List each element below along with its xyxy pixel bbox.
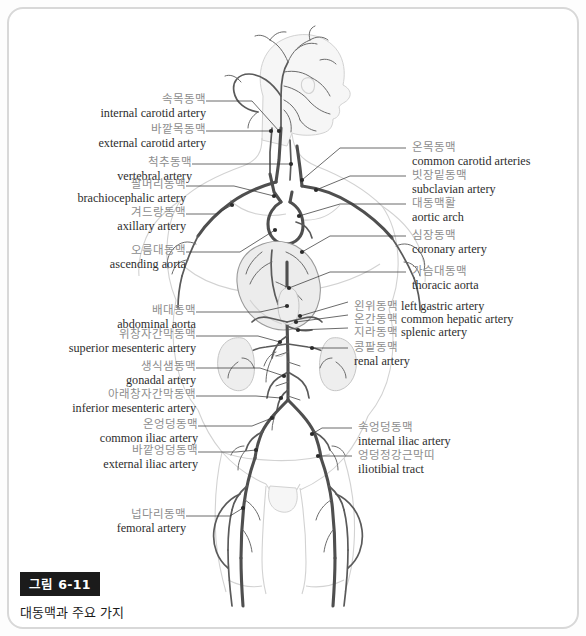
figure-caption: 그림 6-11 대동맥과 주요 가지 — [20, 572, 320, 621]
label-en: external carotid artery — [2, 136, 206, 150]
label-ko: 바깥목동맥 — [2, 122, 206, 136]
label-femoral-artery: 넙다리동맥 femoral artery — [2, 507, 186, 535]
label-external-iliac-artery: 바깥엉덩동맥 external iliac artery — [2, 443, 198, 471]
label-ko: 위창자간막동맥 — [2, 327, 196, 341]
label-ko: 심장동맥 — [412, 228, 487, 242]
label-ascending-aorta: 오름대동맥 ascending aorta — [2, 243, 186, 271]
label-en: internal carotid artery — [2, 106, 206, 120]
label-ko: 지라동맥 — [354, 325, 398, 339]
label-en: inferior mesenteric artery — [2, 401, 196, 415]
label-ko: 가슴대동맥 — [412, 264, 479, 278]
label-en: femoral artery — [2, 521, 186, 535]
label-en: gonadal artery — [2, 373, 196, 387]
label-en: renal artery — [354, 354, 410, 368]
label-inferior-mesenteric-artery: 아래창자간막동맥 inferior mesenteric artery — [2, 387, 196, 415]
label-ko: 척추동맥 — [2, 155, 192, 169]
label-en: axillary artery — [2, 219, 186, 233]
label-ko: 바깥엉덩동맥 — [2, 443, 198, 457]
label-ko: 빗장밑동맥 — [412, 168, 496, 182]
label-ko: 속엉덩동맥 — [358, 420, 451, 434]
label-ko: 대동맥활 — [412, 196, 464, 210]
label-internal-iliac-artery: 속엉덩동맥 internal iliac artery — [358, 420, 451, 448]
label-brachiocephalic-artery: 팔머리동맥 brachiocephalic artery — [2, 177, 186, 205]
label-superior-mesenteric-artery: 위창자간막동맥 superior mesenteric artery — [2, 327, 196, 355]
label-en: iliotibial tract — [358, 462, 435, 476]
label-common-iliac-artery: 온엉덩동맥 common iliac artery — [2, 417, 198, 445]
label-ko: 팔머리동맥 — [2, 177, 186, 191]
label-internal-carotid-artery: 속목동맥 internal carotid artery — [2, 92, 206, 120]
label-thoracic-aorta: 가슴대동맥 thoracic aorta — [412, 264, 479, 292]
label-en: external iliac artery — [2, 457, 198, 471]
label-external-carotid-artery: 바깥목동맥 external carotid artery — [2, 122, 206, 150]
label-ko: 온엉덩동맥 — [2, 417, 198, 431]
label-ko: 온목동맥 — [412, 140, 530, 154]
anatomical-illustration: .body{fill:none;stroke:#d2d2d2;stroke-wi… — [0, 0, 586, 636]
label-ko: 아래창자간막동맥 — [2, 387, 196, 401]
label-coronary-artery: 심장동맥 coronary artery — [412, 228, 487, 256]
label-en: ascending aorta — [2, 257, 186, 271]
label-axillary-artery: 겨드랑동맥 axillary artery — [2, 205, 186, 233]
label-renal-artery: 콩팥동맥 renal artery — [354, 340, 410, 368]
label-en: brachiocephalic artery — [2, 191, 186, 205]
label-aortic-arch: 대동맥활 aortic arch — [412, 196, 464, 224]
label-splenic-artery: 지라동맥splenic artery — [354, 322, 467, 340]
label-ko: 넙다리동맥 — [2, 507, 186, 521]
label-subclavian-artery: 빗장밑동맥 subclavian artery — [412, 168, 496, 196]
label-en: superior mesenteric artery — [2, 341, 196, 355]
label-en: subclavian artery — [412, 182, 496, 196]
label-common-carotid-arteries: 온목동맥 common carotid arteries — [412, 140, 530, 168]
label-ko: 콩팥동맥 — [354, 340, 410, 354]
figure-number-badge: 그림 6-11 — [20, 572, 100, 596]
label-iliotibial-tract: 엉덩정강근막띠 iliotibial tract — [358, 448, 435, 476]
label-ko: 오름대동맥 — [2, 243, 186, 257]
label-en: thoracic aorta — [412, 278, 479, 292]
label-ko: 겨드랑동맥 — [2, 205, 186, 219]
label-ko: 엉덩정강근막띠 — [358, 448, 435, 462]
figure-caption-text: 대동맥과 주요 가지 — [20, 602, 320, 621]
label-en: coronary artery — [412, 242, 487, 256]
label-ko: 배대동맥 — [2, 303, 196, 317]
label-en: aortic arch — [412, 210, 464, 224]
label-en: internal iliac artery — [358, 434, 451, 448]
label-en: splenic artery — [401, 325, 467, 339]
label-gonadal-artery: 생식샘동맥 gonadal artery — [2, 359, 196, 387]
label-en: common carotid arteries — [412, 154, 530, 168]
label-ko: 생식샘동맥 — [2, 359, 196, 373]
label-ko: 속목동맥 — [2, 92, 206, 106]
